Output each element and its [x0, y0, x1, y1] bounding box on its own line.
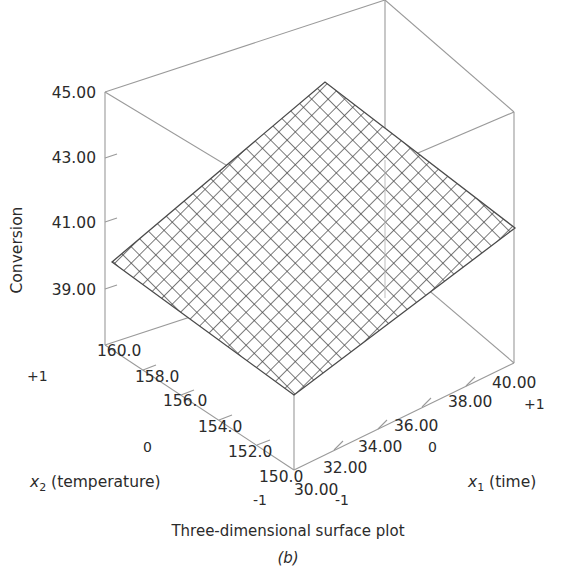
x2-axis-title-rest: (temperature) — [46, 473, 160, 491]
box-edge-top-back-right — [385, 0, 514, 112]
z-tick-label-43: 43.00 — [52, 149, 96, 167]
x1-axis-ticks — [334, 377, 475, 450]
box-edge-top-back-left — [105, 0, 385, 92]
x2-tick-label-154: 154.0 — [198, 418, 242, 436]
x2-axis-title: x2 (temperature) — [29, 473, 161, 494]
z-tick-label-39: 39.00 — [52, 281, 96, 299]
x1-axis-title: x1 (time) — [467, 473, 536, 494]
x1-coded-label-plus1: +1 — [524, 396, 545, 412]
z-axis-ticks — [105, 154, 117, 289]
z-tick-label-41: 41.00 — [52, 214, 96, 232]
z-tick-39 — [105, 285, 117, 289]
x1-tick-label-30: 30.00 — [294, 481, 338, 499]
z-tick-label-45: 45.00 — [52, 84, 96, 102]
x2-tick-label-158: 158.0 — [135, 368, 179, 386]
x2-tick-label-160: 160.0 — [97, 342, 141, 360]
x1-tick-34 — [378, 420, 387, 429]
x2-axis-title-sub: 2 — [39, 481, 46, 494]
z-axis-title: Conversion — [8, 207, 26, 294]
response-surface — [112, 82, 515, 395]
x2-coded-label-zero: 0 — [143, 439, 152, 455]
z-axis-tick-labels: 45.00 43.00 41.00 39.00 — [52, 84, 96, 299]
x1-axis-title-rest: (time) — [484, 473, 536, 491]
x2-coded-label-plus1: +1 — [27, 368, 48, 384]
x1-tick-label-38: 38.00 — [448, 393, 492, 411]
z-tick-43 — [105, 154, 117, 158]
x1-coded-label-zero: 0 — [428, 439, 437, 455]
surface-plot-svg: 45.00 43.00 41.00 39.00 Conversion 160.0… — [0, 0, 576, 573]
figure-caption: Three-dimensional surface plot — [170, 522, 404, 540]
x1-coded-label-minus1: -1 — [335, 492, 349, 508]
x2-coded-label-minus1: -1 — [253, 492, 267, 508]
z-tick-41 — [105, 218, 117, 222]
x1-tick-label-40: 40.00 — [492, 374, 536, 392]
x1-axis-title-sub: 1 — [477, 481, 484, 494]
figure-panel-label: (b) — [277, 549, 298, 567]
surface-mesh-plane — [112, 82, 515, 395]
x2-tick-label-152: 152.0 — [228, 443, 272, 461]
x2-tick-label-156: 156.0 — [163, 392, 207, 410]
x1-tick-label-34: 34.00 — [358, 438, 402, 456]
x1-tick-label-36: 36.00 — [394, 417, 438, 435]
x1-tick-label-32: 32.00 — [323, 459, 367, 477]
figure-3d-surface-plot: 45.00 43.00 41.00 39.00 Conversion 160.0… — [0, 0, 576, 573]
